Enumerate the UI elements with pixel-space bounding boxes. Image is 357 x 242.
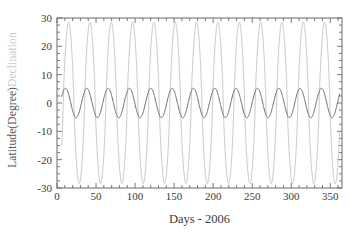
x-axis-title: Days - 2006	[57, 212, 342, 227]
x-axis-tick-labels: 050100150200250300350	[57, 190, 342, 206]
x-tick-label: 200	[205, 190, 222, 202]
x-tick-label: 150	[166, 190, 183, 202]
x-tick-label: 100	[127, 190, 144, 202]
x-tick-label: 50	[91, 190, 102, 202]
x-tick-label: 350	[322, 190, 339, 202]
x-tick-label: 250	[244, 190, 261, 202]
x-tick-label: 0	[54, 190, 60, 202]
chart-figure: Latitude(Degree)Declination 3020100-10-2…	[0, 0, 357, 242]
x-tick-label: 300	[283, 190, 300, 202]
